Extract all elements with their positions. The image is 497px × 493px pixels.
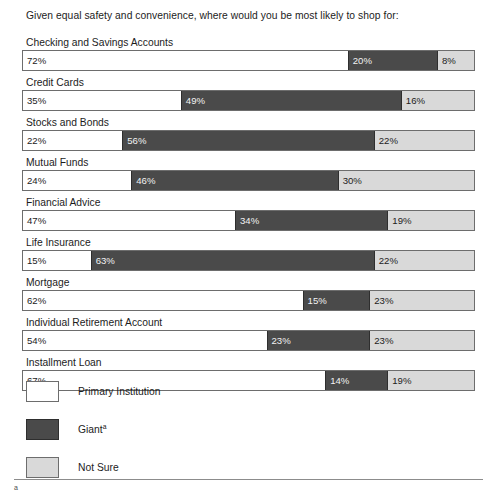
bar-segment-value: 54% — [27, 336, 46, 346]
bar-segment-value: 14% — [330, 376, 349, 386]
legend-item-label: Gianta — [78, 424, 106, 435]
legend-label-superscript: a — [103, 423, 107, 430]
chart-row: Financial Advice47%34%19% — [22, 196, 475, 236]
row-category-label: Installment Loan — [26, 356, 102, 369]
row-category-label: Stocks and Bonds — [26, 116, 109, 129]
bar-segment-not-sure: 30% — [339, 171, 474, 190]
bar-segment-value: 16% — [406, 96, 425, 106]
row-category-label: Mutual Funds — [26, 156, 88, 169]
stacked-bar: 72%20%8% — [22, 50, 475, 71]
bar-segment-value: 47% — [27, 216, 46, 226]
chart-page: Given equal safety and convenience, wher… — [0, 0, 497, 493]
stacked-bar: 22%56%22% — [22, 130, 475, 151]
chart-row: Checking and Savings Accounts72%20%8% — [22, 36, 475, 76]
bar-segment-value: 30% — [343, 176, 362, 186]
chart-row: Stocks and Bonds22%56%22% — [22, 116, 475, 156]
bar-segment-not-sure: 16% — [402, 91, 474, 110]
bar-segment-primary-institution: 35% — [23, 91, 181, 110]
bar-segment-value: 35% — [27, 96, 46, 106]
bar-segment-value: 34% — [240, 216, 259, 226]
stacked-bar: 62%15%23% — [22, 290, 475, 311]
primary-institution-swatch — [26, 381, 59, 402]
chart-question-title: Given equal safety and convenience, wher… — [26, 10, 399, 21]
bar-segment-giant: 20% — [348, 51, 438, 70]
footnote-marker: a — [14, 484, 18, 491]
bar-segment-value: 56% — [127, 136, 146, 146]
bar-segment-not-sure: 22% — [375, 131, 474, 150]
bar-segment-not-sure: 19% — [388, 371, 474, 390]
legend-label-text: Primary Institution — [78, 386, 160, 397]
bar-segment-giant: 14% — [325, 371, 388, 390]
bar-segment-value: 49% — [186, 96, 205, 106]
bar-segment-primary-institution: 72% — [23, 51, 348, 70]
row-category-label: Mortgage — [26, 276, 70, 289]
stacked-bar: 15%63%22% — [22, 250, 475, 271]
row-category-label: Checking and Savings Accounts — [26, 36, 173, 49]
chart-row: Credit Cards35%49%16% — [22, 76, 475, 116]
bar-segment-value: 20% — [353, 56, 372, 66]
bar-segment-giant: 63% — [91, 251, 375, 270]
bar-segment-value: 24% — [27, 176, 46, 186]
bar-segment-value: 72% — [27, 56, 46, 66]
bar-segment-value: 23% — [374, 296, 393, 306]
bar-segment-giant: 15% — [303, 291, 371, 310]
bar-segment-giant: 46% — [131, 171, 338, 190]
bar-segment-value: 15% — [308, 296, 327, 306]
chart-row: Individual Retirement Account54%23%23% — [22, 316, 475, 356]
bar-segment-giant: 49% — [181, 91, 402, 110]
bar-segment-not-sure: 22% — [375, 251, 474, 270]
bar-segment-value: 22% — [379, 136, 398, 146]
row-category-label: Financial Advice — [26, 196, 100, 209]
legend-label-text: Not Sure — [78, 462, 119, 473]
legend-item-label: Not Sure — [78, 462, 119, 473]
footnote-divider — [14, 479, 483, 480]
bar-segment-value: 63% — [96, 256, 115, 266]
row-category-label: Life Insurance — [26, 236, 91, 249]
stacked-bar: 54%23%23% — [22, 330, 475, 351]
bar-segment-giant: 34% — [235, 211, 388, 230]
bar-segment-value: 8% — [442, 56, 456, 66]
bar-segment-primary-institution: 47% — [23, 211, 235, 230]
stacked-bar: 47%34%19% — [22, 210, 475, 231]
bar-segment-value: 46% — [136, 176, 155, 186]
bar-segment-primary-institution: 22% — [23, 131, 122, 150]
row-category-label: Credit Cards — [26, 76, 84, 89]
bar-segment-giant: 23% — [267, 331, 371, 350]
giant-swatch — [26, 419, 59, 440]
bar-segment-value: 23% — [374, 336, 393, 346]
bar-segment-value: 23% — [272, 336, 291, 346]
bar-segment-not-sure: 8% — [438, 51, 474, 70]
bar-segment-value: 15% — [27, 256, 46, 266]
bar-segment-value: 19% — [392, 376, 411, 386]
chart-row: Mortgage62%15%23% — [22, 276, 475, 316]
row-category-label: Individual Retirement Account — [26, 316, 162, 329]
chart-row: Life Insurance15%63%22% — [22, 236, 475, 276]
stacked-bar: 35%49%16% — [22, 90, 475, 111]
not-sure-swatch — [26, 457, 59, 478]
stacked-bar-rows: Checking and Savings Accounts72%20%8%Cre… — [22, 36, 475, 396]
bar-segment-primary-institution: 15% — [23, 251, 91, 270]
bar-segment-primary-institution: 54% — [23, 331, 267, 350]
bar-segment-primary-institution: 67% — [23, 371, 325, 390]
bar-segment-giant: 56% — [122, 131, 375, 150]
bar-segment-primary-institution: 62% — [23, 291, 303, 310]
bar-segment-value: 22% — [379, 256, 398, 266]
bar-segment-not-sure: 19% — [388, 211, 474, 230]
bar-segment-value: 62% — [27, 296, 46, 306]
legend-item-label: Primary Institution — [78, 386, 160, 397]
chart-row: Mutual Funds24%46%30% — [22, 156, 475, 196]
bar-segment-value: 22% — [27, 136, 46, 146]
bar-segment-value: 19% — [392, 216, 411, 226]
legend-label-text: Giant — [78, 424, 103, 435]
stacked-bar: 24%46%30% — [22, 170, 475, 191]
bar-segment-not-sure: 23% — [370, 291, 474, 310]
bar-segment-primary-institution: 24% — [23, 171, 131, 190]
bar-segment-not-sure: 23% — [370, 331, 474, 350]
